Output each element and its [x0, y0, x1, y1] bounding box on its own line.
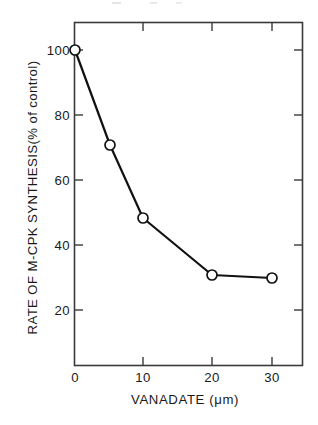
y-axis: 100 80 60 40 20	[47, 43, 83, 318]
x-tick-label-30: 30	[264, 370, 279, 385]
data-point	[70, 45, 80, 55]
data-point	[138, 213, 148, 223]
x-tick-label-0: 0	[71, 370, 79, 385]
y-tick-label-60: 60	[55, 173, 70, 188]
y-tick-label-80: 80	[55, 108, 70, 123]
chart-canvas: 100 80 60 40 20 0 10 20 30	[0, 0, 318, 425]
data-point	[267, 273, 277, 283]
plot-frame	[75, 23, 303, 366]
series-line	[75, 50, 272, 278]
right-axis-ticks	[294, 50, 302, 310]
y-tick-label-100: 100	[47, 43, 70, 58]
y-tick-label-40: 40	[55, 238, 70, 253]
x-tick-label-10: 10	[135, 370, 150, 385]
x-tick-label-20: 20	[204, 370, 219, 385]
x-axis-title: VANADATE (μm)	[60, 392, 310, 407]
figure-container: 100 80 60 40 20 0 10 20 30 RATE OF M-CPK	[0, 0, 318, 425]
scan-artifacts	[112, 2, 182, 4]
data-point	[207, 270, 217, 280]
top-axis-ticks	[143, 23, 272, 31]
x-axis: 0 10 20 30	[71, 357, 280, 385]
y-axis-title: RATE OF M-CPK SYNTHESIS(% of control)	[25, 48, 40, 348]
y-tick-label-20: 20	[55, 303, 70, 318]
data-point	[105, 140, 115, 150]
data-series-m-cpk-synthesis	[70, 45, 277, 283]
